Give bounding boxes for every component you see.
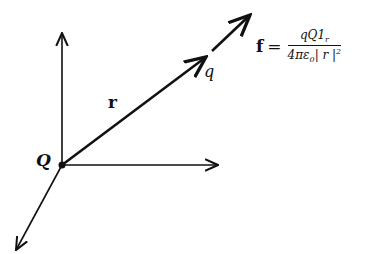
coulomb-force-formula: f = qQ1r 4πε0| r |2	[256, 28, 341, 65]
position-vector-label: r	[108, 92, 117, 112]
formula-lhs: f	[256, 36, 263, 56]
position-vector-r	[62, 57, 206, 165]
depth-axis-arrow	[16, 165, 62, 250]
formula-fraction: qQ1r 4πε0| r |2	[288, 28, 342, 65]
charge-q-dot	[59, 162, 66, 169]
formula-equals: =	[267, 36, 281, 56]
source-charge-label: Q	[36, 150, 51, 170]
test-charge-label: q	[204, 62, 214, 81]
force-vector-f	[212, 15, 250, 51]
formula-denominator: 4πε0| r |2	[288, 46, 342, 64]
formula-numerator: qQ1r	[296, 28, 333, 45]
